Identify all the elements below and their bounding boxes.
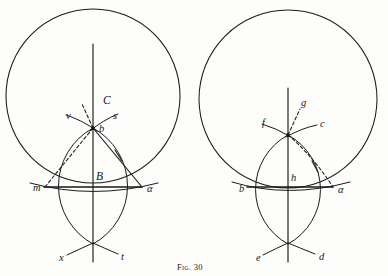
left-label-v: v bbox=[66, 110, 71, 121]
right-arc-d bbox=[288, 243, 315, 254]
right-arc-c bbox=[286, 125, 317, 137]
right-label-e: e bbox=[256, 252, 261, 263]
left-label-C: C bbox=[103, 94, 111, 106]
left-arc-t bbox=[93, 243, 118, 254]
figure-plate: C v s b B m α x t g bbox=[0, 0, 388, 276]
left-vesica-arc-left bbox=[58, 128, 93, 244]
right-construction: g f c h b α e d bbox=[199, 10, 377, 263]
left-vesica-arc-right bbox=[93, 128, 128, 244]
left-label-B: B bbox=[96, 170, 103, 182]
right-label-f: f bbox=[262, 117, 267, 128]
figure-caption: Fig. 30 bbox=[177, 262, 203, 272]
geometry-diagram-svg: C v s b B m α x t g bbox=[0, 0, 388, 276]
right-label-g: g bbox=[301, 97, 306, 108]
left-dashed-b-to-m bbox=[45, 128, 93, 187]
left-label-m: m bbox=[33, 182, 41, 193]
left-construction: C v s b B m α x t bbox=[6, 9, 180, 263]
right-label-c: c bbox=[320, 118, 325, 129]
left-label-s: s bbox=[113, 110, 117, 121]
right-label-b: b bbox=[239, 183, 244, 194]
right-label-alpha: α bbox=[338, 184, 344, 195]
right-arc-e bbox=[263, 243, 288, 255]
right-apex-point bbox=[286, 133, 290, 137]
right-label-d: d bbox=[319, 251, 325, 262]
left-label-alpha: α bbox=[147, 183, 153, 194]
left-label-x: x bbox=[58, 252, 64, 263]
left-label-t: t bbox=[121, 251, 125, 262]
right-label-h: h bbox=[291, 172, 296, 183]
left-label-b: b bbox=[99, 123, 104, 134]
left-arc-x bbox=[67, 243, 93, 255]
left-apex-point-b bbox=[91, 126, 95, 130]
